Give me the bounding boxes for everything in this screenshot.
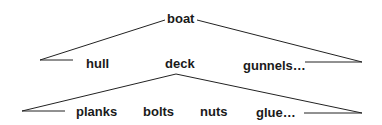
node-nuts: nuts xyxy=(200,105,227,119)
tree-diagram: boat hull deck gunnels… planks bolts nut… xyxy=(0,0,382,125)
node-hull: hull xyxy=(86,57,109,71)
node-glue: glue… xyxy=(256,106,296,120)
node-planks: planks xyxy=(76,105,117,119)
node-boat: boat xyxy=(167,12,194,26)
edge-boat-right xyxy=(197,20,362,62)
node-bolts: bolts xyxy=(143,105,174,119)
node-deck: deck xyxy=(165,57,195,71)
edge-boat-left xyxy=(40,20,165,60)
node-gunnels: gunnels… xyxy=(243,59,306,73)
